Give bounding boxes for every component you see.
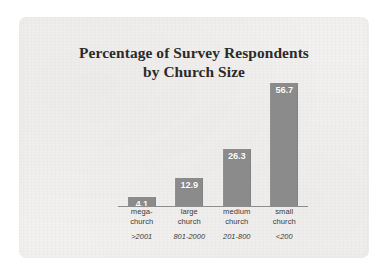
category-label-medium-church-line-1: medium [223, 207, 250, 216]
bar-series: 4.1 12.9 26.3 56.7 [118, 66, 308, 206]
bar-small-church[interactable]: 56.7 [270, 83, 298, 206]
chart-panel: Percentage of Survey Respondents by Chur… [19, 17, 369, 258]
category-label-large-church-line-1: large [181, 207, 198, 216]
bar-slot-small-church: 56.7 [262, 66, 306, 206]
chart-title-line-1: Percentage of Survey Respondents [79, 44, 309, 61]
screenshot-root: Percentage of Survey Respondents by Chur… [0, 0, 391, 276]
category-label-small-church-line-1: small [275, 207, 293, 216]
category-label-large-church-line-2: church [167, 217, 211, 227]
category-range-small-church: <200 [262, 232, 306, 241]
category-small-church: small church <200 [262, 207, 306, 241]
bar-mega-church[interactable]: 4.1 [128, 197, 156, 206]
category-medium-church: medium church 201-800 [215, 207, 259, 241]
category-label-small-church-line-2: church [262, 217, 306, 227]
category-large-church: large church 801-2000 [167, 207, 211, 241]
category-range-mega-church: >2001 [120, 232, 164, 241]
bar-slot-medium-church: 26.3 [215, 66, 259, 206]
bar-slot-mega-church: 4.1 [120, 66, 164, 206]
category-label-medium-church: medium church [215, 207, 259, 226]
bar-slot-large-church: 12.9 [167, 66, 211, 206]
category-range-large-church: 801-2000 [167, 232, 211, 241]
category-label-small-church: small church [262, 207, 306, 226]
category-mega-church: mega- church >2001 [120, 207, 164, 241]
plot-area: 4.1 12.9 26.3 56.7 [118, 65, 308, 206]
category-range-medium-church: 201-800 [215, 232, 259, 241]
category-label-medium-church-line-2: church [215, 217, 259, 227]
category-label-mega-church: mega- church [120, 207, 164, 226]
bar-medium-church[interactable]: 26.3 [223, 149, 251, 206]
category-label-mega-church-line-2: church [120, 217, 164, 227]
category-label-mega-church-line-1: mega- [131, 207, 153, 216]
bar-value-medium-church: 26.3 [223, 151, 251, 162]
bar-value-large-church: 12.9 [175, 180, 203, 191]
bar-value-small-church: 56.7 [270, 85, 298, 96]
category-label-large-church: large church [167, 207, 211, 226]
bar-large-church[interactable]: 12.9 [175, 178, 203, 206]
x-axis-category-labels: mega- church >2001 large church 801-2000… [118, 207, 308, 241]
